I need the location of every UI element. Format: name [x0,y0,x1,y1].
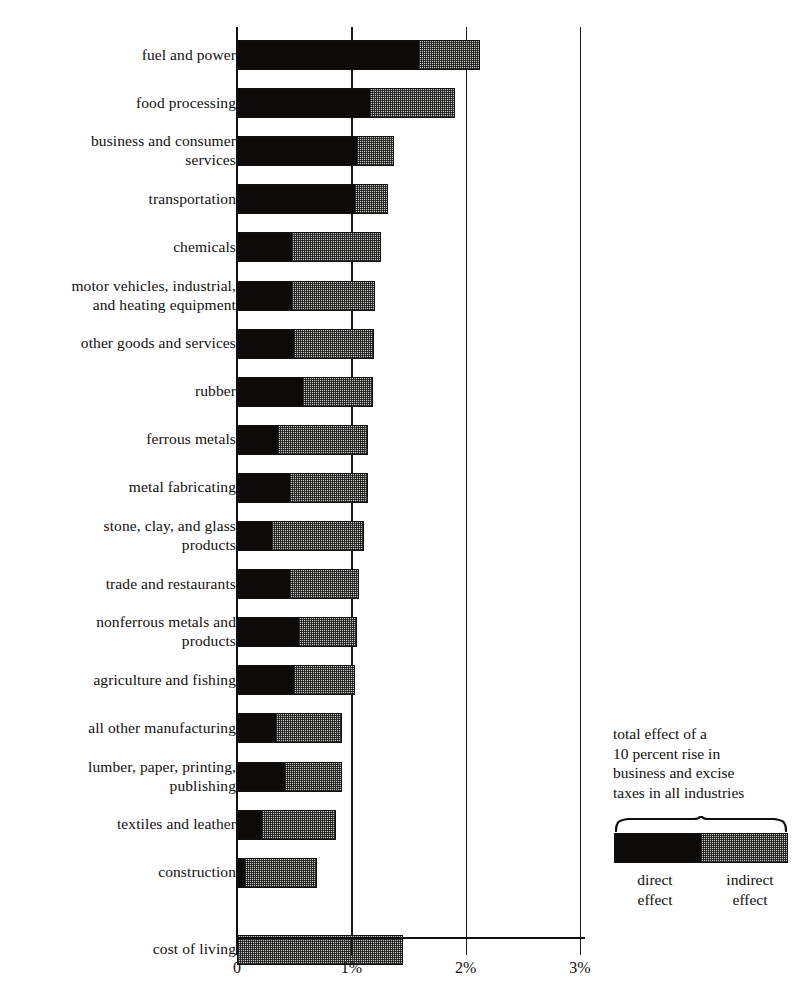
bar-segment-direct [237,425,278,455]
stacked-bar [237,810,336,840]
legend-swatch-direct [615,834,701,862]
bar-segment-direct [237,713,276,743]
bar-segment-direct [237,665,294,695]
chart-row: trade and restaurants [0,569,812,599]
chart-row: stone, clay, and glass products [0,521,812,551]
stacked-bar [237,329,374,359]
x-tick-label: 2% [455,959,476,977]
stacked-bar [237,377,373,407]
stacked-bar [237,569,359,599]
bar-segment-direct [237,329,294,359]
bar-segment-direct [237,810,262,840]
y-axis-line [236,27,238,955]
chart-row: ferrous metals [0,425,812,455]
bar-segment-direct [237,858,245,888]
bar-segment-indirect [292,232,381,262]
x-tick-label: 0 [233,959,241,977]
bar-segment-direct [237,569,290,599]
stacked-bar [237,858,317,888]
stacked-bar [237,762,342,792]
category-label: textiles and leather [117,814,236,833]
chart-row: fuel and power [0,40,812,70]
category-label: construction [158,862,236,881]
bar-segment-direct [237,617,299,647]
bar-segment-indirect [294,665,355,695]
stacked-bar [237,425,368,455]
category-label: lumber, paper, printing, publishing [88,757,236,795]
stacked-bar [237,232,381,262]
stacked-bar [237,665,355,695]
bar-segment-indirect [237,935,403,965]
category-label: food processing [136,93,236,112]
stacked-bar [237,281,375,311]
category-label: metal fabricating [129,477,236,496]
bar-segment-indirect [357,136,394,166]
x-tick-label: 3% [569,959,590,977]
category-label: rubber [195,381,236,400]
bar-segment-direct [237,88,370,118]
stacked-bar [237,473,368,503]
x-tick [351,939,352,955]
category-label: all other manufacturing [88,718,236,737]
bar-segment-direct [237,281,292,311]
chart-row: other goods and services [0,329,812,359]
bar-segment-direct [237,521,272,551]
bar-segment-indirect [303,377,373,407]
category-label: nonferrous metals and products [96,612,236,650]
bar-segment-direct [237,40,419,70]
legend-swatch [614,833,788,863]
bar-segment-indirect [285,762,342,792]
bar-segment-direct [237,377,303,407]
stacked-bar [237,713,342,743]
bar-segment-indirect [370,88,456,118]
x-tick-label: 1% [341,959,362,977]
bar-segment-indirect [290,569,360,599]
chart-row: cost of living [0,935,812,965]
bar-chart: fuel and powerfood processingbusiness an… [0,0,812,998]
chart-row: metal fabricating [0,473,812,503]
bar-segment-direct [237,232,292,262]
category-label: stone, clay, and glass products [104,516,236,554]
bar-segment-indirect [292,281,375,311]
category-label: agriculture and fishing [93,670,236,689]
chart-row: motor vehicles, industrial, and heating … [0,281,812,311]
bar-segment-indirect [355,184,388,214]
legend-key-indirect: indirect effect [699,870,801,909]
legend-brace-icon [614,816,788,832]
bar-segment-direct [237,473,290,503]
x-tick [580,939,581,955]
bar-segment-indirect [294,329,374,359]
stacked-bar [237,935,403,965]
bar-segment-direct [237,184,355,214]
category-label: transportation [149,189,237,208]
bar-segment-indirect [290,473,369,503]
chart-row: nonferrous metals and products [0,617,812,647]
stacked-bar [237,136,394,166]
bar-segment-indirect [272,521,363,551]
bar-segment-indirect [299,617,357,647]
stacked-bar [237,88,455,118]
bar-segment-indirect [278,425,368,455]
category-label: trade and restaurants [106,574,236,593]
bar-segment-direct [237,762,285,792]
stacked-bar [237,40,480,70]
category-label: fuel and power [142,45,236,64]
bar-segment-indirect [276,713,342,743]
bar-segment-direct [237,136,357,166]
bar-segment-indirect [245,858,317,888]
chart-row: business and consumer services [0,136,812,166]
category-label: motor vehicles, industrial, and heating … [71,276,236,314]
chart-row: transportation [0,184,812,214]
bar-segment-indirect [419,40,481,70]
category-label: business and consumer services [91,131,236,169]
category-label: other goods and services [81,333,236,352]
category-label: cost of living [153,939,236,958]
legend-key-direct: direct effect [609,870,701,909]
chart-row: rubber [0,377,812,407]
chart-row: food processing [0,88,812,118]
stacked-bar [237,184,388,214]
bar-segment-indirect [262,810,336,840]
stacked-bar [237,521,364,551]
category-label: chemicals [173,237,236,256]
chart-row: chemicals [0,232,812,262]
